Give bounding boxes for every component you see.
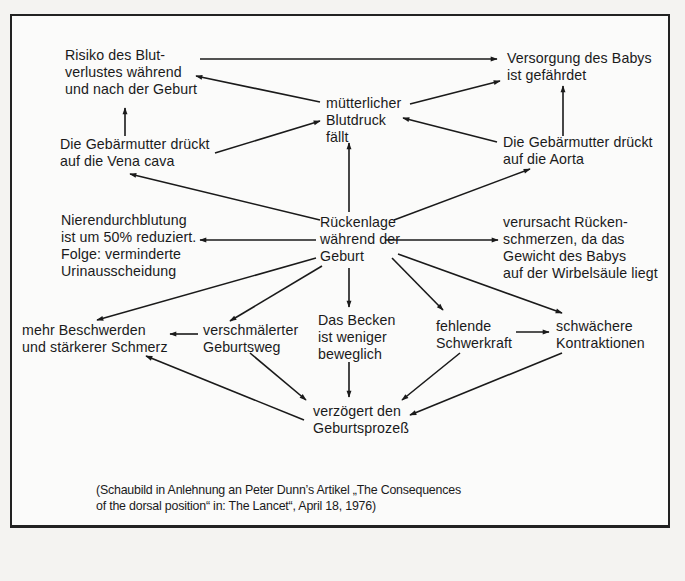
node-rueckenschmerz: verursacht Rücken- schmerzen, da das Gew… bbox=[503, 214, 658, 282]
source-caption: (Schaubild in Anlehnung an Peter Dunn’s … bbox=[96, 482, 461, 514]
node-aorta: Die Gebärmutter drückt auf die Aorta bbox=[503, 134, 653, 168]
node-becken: Das Becken ist weniger beweglich bbox=[318, 312, 396, 363]
node-blutverlust: Risiko des Blut- verlustes während und n… bbox=[65, 47, 197, 98]
node-schwerkraft: fehlende Schwerkraft bbox=[436, 318, 512, 352]
node-geburtsweg: verschmälerter Geburtsweg bbox=[203, 322, 298, 356]
node-vena-cava: Die Gebärmutter drückt auf die Vena cava bbox=[60, 136, 210, 170]
node-verzoegert: verzögert den Geburtsprozeß bbox=[313, 403, 409, 437]
node-niere: Nierendurchblutung ist um 50% reduziert.… bbox=[61, 212, 196, 280]
node-rueckenlage: Rückenlage während der Geburt bbox=[320, 214, 400, 265]
node-versorgung: Versorgung des Babys ist gefährdet bbox=[507, 50, 652, 84]
node-beschwerden: mehr Beschwerden und stärkerer Schmerz bbox=[22, 322, 168, 356]
node-kontraktionen: schwächere Kontraktionen bbox=[556, 318, 645, 352]
node-blutdruck: mütterlicher Blutdruck fällt bbox=[326, 95, 401, 146]
